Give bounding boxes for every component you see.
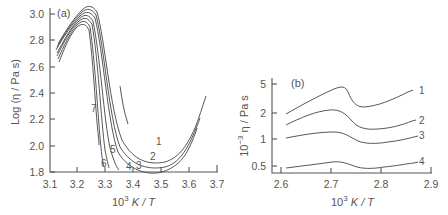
curve-6 <box>58 21 104 167</box>
curve-label-6: 6 <box>101 158 107 169</box>
x-tick-label: 3.7 <box>210 178 225 190</box>
panel-a-y-tick-labels: 1.8 2.0 2.2 2.4 2.6 2.8 3.0 <box>29 8 44 178</box>
panel-a-label: (a) <box>57 7 70 19</box>
curve-b-4 <box>286 162 414 169</box>
panel-b-x-ticks <box>281 167 431 173</box>
panel-a-y-axis-title: Log (η / Pa s) <box>9 59 21 125</box>
panel-a-x-ticks <box>77 165 217 172</box>
curve-b-3 <box>286 132 414 143</box>
panel-b-y-tick-labels: 5 2 1 0.5 <box>251 78 266 172</box>
y-tick-label: 5 <box>260 78 266 90</box>
panel-a: 1.8 2.0 2.2 2.4 2.6 2.8 3.0 3.1 3.2 3.3 … <box>9 6 224 208</box>
curve-label-3: 3 <box>136 160 142 171</box>
figure: 1.8 2.0 2.2 2.4 2.6 2.8 3.0 3.1 3.2 3.3 … <box>0 0 448 215</box>
y-tick-label: 2.2 <box>29 113 44 125</box>
panel-a-curves <box>56 6 206 173</box>
chart-svg: 1.8 2.0 2.2 2.4 2.6 2.8 3.0 3.1 3.2 3.3 … <box>0 0 448 215</box>
curve-label-b-1: 1 <box>419 85 425 96</box>
curve-label-7: 7 <box>91 103 97 114</box>
x-tick-label: 2.8 <box>374 178 389 190</box>
x-tick-label: 2.6 <box>274 178 289 190</box>
panel-a-x-axis-title: 103 K / T <box>112 194 156 208</box>
panel-b-curves <box>286 87 418 168</box>
x-tick-label: 2.7 <box>324 178 339 190</box>
panel-b-x-tick-labels: 2.6 2.7 2.8 2.9 <box>274 178 439 190</box>
x-tick-label: 3.6 <box>182 178 197 190</box>
y-tick-label: 3.0 <box>29 8 44 20</box>
x-tick-label: 3.3 <box>98 178 113 190</box>
y-tick-label: 2.6 <box>29 61 44 73</box>
curve-7 <box>59 24 99 145</box>
x-tick-label: 3.4 <box>126 178 141 190</box>
y-tick-label: 2.4 <box>29 87 44 99</box>
y-tick-label: 0.5 <box>251 160 266 172</box>
panel-b-y-ticks <box>272 84 277 166</box>
x-tick-label: 3.5 <box>154 178 169 190</box>
x-tick-label: 3.2 <box>70 178 85 190</box>
y-tick-label: 2.0 <box>29 140 44 152</box>
curve-2 <box>57 9 200 168</box>
panel-b-label: (b) <box>291 77 304 89</box>
curve-label-b-2: 2 <box>419 115 425 126</box>
panel-b-x-axis-title: 103 K / T <box>331 194 375 208</box>
curve-label-1: 1 <box>156 136 162 147</box>
curve-label-4: 4 <box>126 161 132 172</box>
panel-a-x-tick-labels: 3.1 3.2 3.3 3.4 3.5 3.6 3.7 <box>43 178 225 190</box>
panel-b-curve-labels: 1 2 3 4 <box>419 85 425 167</box>
panel-b: 5 2 1 0.5 2.6 2.7 2.8 2.9 103 K / T 10−3… <box>236 77 438 208</box>
curve-label-2: 2 <box>150 151 156 162</box>
x-tick-label: 2.9 <box>424 178 439 190</box>
panel-b-y-axis-title: 10−3 η / Pa s <box>236 95 250 157</box>
y-tick-label: 1 <box>260 133 266 145</box>
curve-label-b-3: 3 <box>419 130 425 141</box>
curve-3 <box>56 12 197 173</box>
curve-1-start <box>120 86 128 124</box>
curve-b-2 <box>286 110 412 129</box>
x-tick-label: 3.1 <box>43 178 58 190</box>
curve-1 <box>58 6 206 163</box>
y-tick-label: 2 <box>260 107 266 119</box>
panel-a-y-ticks <box>50 14 55 172</box>
panel-a-axes <box>50 8 218 172</box>
curve-b-label-leaders <box>408 90 418 163</box>
y-tick-label: 1.8 <box>29 166 44 178</box>
curve-label-5: 5 <box>110 144 116 155</box>
y-tick-label: 2.8 <box>29 34 44 46</box>
curve-label-b-4: 4 <box>419 156 425 167</box>
curve-b-1 <box>286 87 408 114</box>
